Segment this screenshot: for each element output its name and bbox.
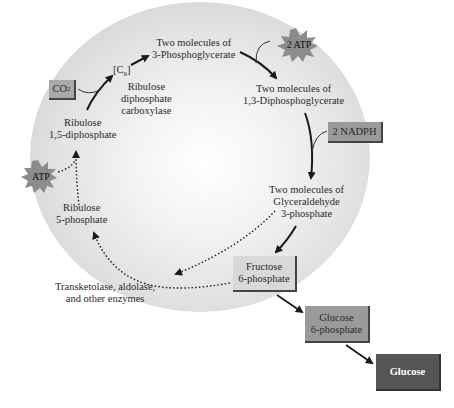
rubisco-line2: diphosphate (121, 93, 172, 105)
glucose-6-phosphate-box: Glucose 6-phosphate (305, 306, 370, 343)
enzyme-regeneration: Transketolase, aldolase, and other enzym… (55, 281, 155, 305)
node-3-phosphoglycerate: Two molecules of 3-Phosphoglycerate (152, 37, 235, 61)
g6p-line1: Glucose (311, 312, 362, 324)
pga-line2: 3-Phosphoglycerate (152, 49, 235, 61)
c6-close: ] (127, 64, 131, 75)
pga-line1: Two molecules of (152, 37, 235, 49)
enzyme-rubisco: Ribulose diphosphate carboxylase (121, 81, 172, 117)
dpg-line1: Two molecules of (243, 83, 344, 95)
arrow-f6p-to-regen (94, 233, 230, 288)
arrow-atp2-join (256, 41, 270, 63)
g3p-line1: Two molecules of (269, 184, 344, 196)
atp-input-burst: ATP (26, 171, 56, 183)
glucose-box: Glucose (376, 354, 441, 391)
rudp-line1: Ribulose (49, 117, 116, 129)
rudp-line2: 1,5-diphosphate (49, 129, 116, 141)
co2-input-box: CO2 (49, 80, 76, 100)
g6p-line2: 6-phosphate (311, 324, 362, 336)
node-c6-intermediate: [C6] (113, 64, 131, 80)
atp2-input-burst: 2 ATP (281, 39, 317, 51)
rubisco-line3: carboxylase (121, 105, 172, 117)
c6-label: [C (113, 64, 124, 75)
regen-line1: Transketolase, aldolase, (55, 281, 155, 293)
ru5p-line1: Ribulose (56, 202, 107, 214)
arrow-g6p-to-glucose (346, 345, 372, 363)
rubisco-line1: Ribulose (121, 81, 172, 93)
node-1-3-diphosphoglycerate: Two molecules of 1,3-Diphosphoglycerate (243, 83, 344, 107)
node-glyceraldehyde-3-phosphate: Two molecules of Glyceraldehyde 3-phosph… (269, 184, 344, 220)
arrow-g3p-to-f6p (276, 226, 296, 252)
arrow-ru5p-to-rudp (76, 152, 79, 205)
arrow-pga-to-dpg (240, 52, 276, 78)
dpg-line2: 1,3-Diphosphoglycerate (243, 95, 344, 107)
nadph-label: 2 NADPH (332, 126, 376, 138)
glucose-label: Glucose (390, 366, 426, 378)
node-ribulose-5-phosphate: Ribulose 5-phosphate (56, 202, 107, 226)
g3p-line2: Glyceraldehyde (269, 196, 344, 208)
arrow-atp-join (58, 160, 75, 172)
regen-line2: and other enzymes (55, 293, 155, 305)
g3p-line3: 3-phosphate (269, 208, 344, 220)
arrow-c6-to-pga (131, 56, 148, 65)
co2-label: CO (52, 83, 67, 95)
fructose-6-phosphate-box: Fructose 6-phosphate (233, 256, 297, 292)
node-ribulose-1-5-diphosphate: Ribulose 1,5-diphosphate (49, 117, 116, 141)
arrow-nadph-join (312, 131, 327, 152)
f6p-line1: Fructose (238, 261, 289, 273)
atp-label: ATP (32, 171, 50, 182)
ru5p-line2: 5-phosphate (56, 214, 107, 226)
atp2-label: 2 ATP (287, 39, 312, 50)
f6p-line2: 6-phosphate (238, 273, 289, 285)
arrow-dpg-to-g3p (305, 113, 312, 178)
arrow-f6p-to-g6p (277, 295, 302, 312)
co2-subscript: 2 (67, 83, 71, 95)
calvin-cycle-diagram: Two molecules of 3-Phosphoglycerate [C6]… (0, 0, 454, 408)
nadph-input-box: 2 NADPH (328, 122, 383, 143)
